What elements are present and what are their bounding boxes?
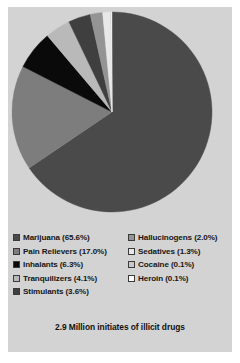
legend-item[interactable]: Hallucinogens (2.0%) xyxy=(128,231,233,244)
legend-swatch-icon xyxy=(13,288,20,295)
legend-item-label: Cocaine (0.1%) xyxy=(138,260,194,269)
legend-swatch-icon xyxy=(128,234,135,241)
chart-caption: 2.9 Million initiates of illicit drugs xyxy=(8,322,232,332)
legend-item-label: Hallucinogens (2.0%) xyxy=(138,233,217,242)
legend-column-right: Hallucinogens (2.0%)Sedatives (1.3%)Coca… xyxy=(128,231,233,285)
legend-item-label: Pain Relievers (17.0%) xyxy=(23,247,107,256)
legend-swatch-icon xyxy=(13,248,20,255)
legend-item[interactable]: Pain Relievers (17.0%) xyxy=(13,245,131,258)
pie-chart-area xyxy=(10,10,214,214)
legend-item[interactable]: Heroin (0.1%) xyxy=(128,272,233,285)
legend-item[interactable]: Cocaine (0.1%) xyxy=(128,258,233,271)
pie-svg xyxy=(10,10,214,214)
legend-item-label: Heroin (0.1%) xyxy=(138,274,188,283)
chart-legend: Marijuana (65.6%)Pain Relievers (17.0%)I… xyxy=(11,231,225,297)
legend-item-label: Tranquilizers (4.1%) xyxy=(23,274,97,283)
legend-item[interactable]: Sedatives (1.3%) xyxy=(128,245,233,258)
legend-item-label: Inhalants (6.3%) xyxy=(23,260,83,269)
legend-swatch-icon xyxy=(13,275,20,282)
legend-item[interactable]: Stimulants (3.6%) xyxy=(13,285,131,298)
legend-item[interactable]: Tranquilizers (4.1%) xyxy=(13,272,131,285)
pie-slices xyxy=(12,12,212,212)
pie-chart-figure: Marijuana (65.6%)Pain Relievers (17.0%)I… xyxy=(0,0,240,363)
legend-swatch-icon xyxy=(128,275,135,282)
legend-swatch-icon xyxy=(128,261,135,268)
legend-item-label: Marijuana (65.6%) xyxy=(23,233,90,242)
legend-item-label: Stimulants (3.6%) xyxy=(23,287,89,296)
legend-swatch-icon xyxy=(128,248,135,255)
legend-swatch-icon xyxy=(13,261,20,268)
legend-item-label: Sedatives (1.3%) xyxy=(138,247,200,256)
legend-swatch-icon xyxy=(13,234,20,241)
legend-item[interactable]: Marijuana (65.6%) xyxy=(13,231,131,244)
legend-column-left: Marijuana (65.6%)Pain Relievers (17.0%)I… xyxy=(13,231,131,299)
legend-item[interactable]: Inhalants (6.3%) xyxy=(13,258,131,271)
